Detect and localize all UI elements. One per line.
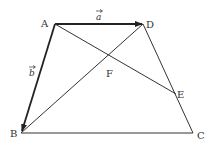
label-d: D xyxy=(146,19,154,30)
vector-a-label: a xyxy=(96,12,101,22)
vector-b-line xyxy=(22,24,55,131)
trapezoid-diagram: A D B C E F a b xyxy=(0,0,213,151)
vector-b-label: b xyxy=(29,68,35,78)
segment-ae xyxy=(55,24,176,94)
diagram-canvas: A D B C E F a b xyxy=(0,0,213,151)
label-a: A xyxy=(40,18,49,29)
label-e: E xyxy=(177,89,184,100)
segment-dc xyxy=(143,24,193,133)
label-b: B xyxy=(10,128,17,139)
segment-bd xyxy=(21,24,143,133)
label-f: F xyxy=(106,68,113,79)
label-c: C xyxy=(197,130,205,141)
